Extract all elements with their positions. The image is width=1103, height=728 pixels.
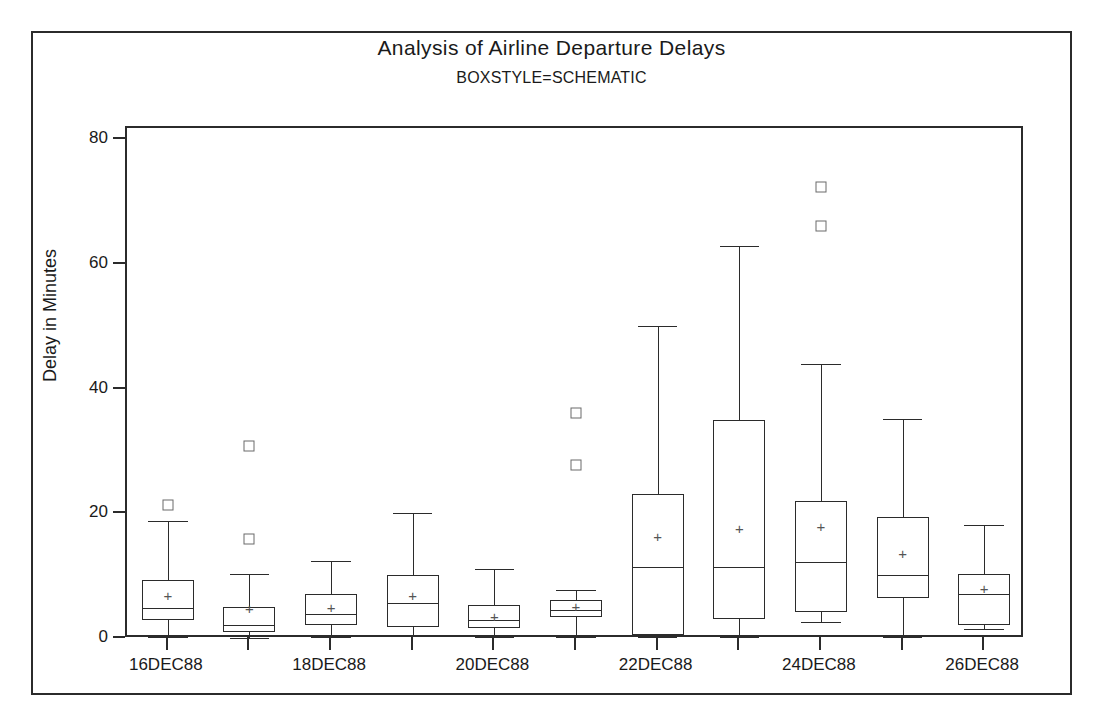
x-tick-label: 18DEC88 xyxy=(292,655,366,675)
x-tick-label: 22DEC88 xyxy=(619,655,693,675)
x-tick-mark xyxy=(901,637,903,650)
y-tick-mark xyxy=(113,387,125,389)
x-tick-mark xyxy=(819,637,821,650)
x-axis-tick-marks xyxy=(125,637,1023,651)
x-tick-label: 16DEC88 xyxy=(129,655,203,675)
x-tick-mark xyxy=(492,637,494,650)
chart-title: Analysis of Airline Departure Delays xyxy=(0,36,1103,60)
x-tick-mark xyxy=(411,637,413,650)
x-tick-mark xyxy=(574,637,576,650)
y-tick-label: 80 xyxy=(89,128,108,148)
y-axis-tick-labels: 020406080 xyxy=(60,126,108,637)
boxplot-series: +++++++++++ xyxy=(127,128,1021,635)
x-tick-mark xyxy=(737,637,739,650)
y-axis-label: Delay in Minutes xyxy=(40,206,61,426)
x-tick-label: 26DEC88 xyxy=(945,655,1019,675)
x-tick-mark xyxy=(247,637,249,650)
chart-subtitle: BOXSTYLE=SCHEMATIC xyxy=(0,69,1103,87)
x-tick-label: 24DEC88 xyxy=(782,655,856,675)
box-plot-group: + xyxy=(127,128,1021,635)
plot-area: +++++++++++ xyxy=(125,126,1023,637)
x-tick-mark xyxy=(656,637,658,650)
y-tick-label: 20 xyxy=(89,502,108,522)
y-tick-mark xyxy=(113,262,125,264)
y-tick-mark xyxy=(113,511,125,513)
box-whisker-cap-lower xyxy=(964,629,1004,630)
box-mean-marker: + xyxy=(980,580,989,595)
box-whisker-cap-upper xyxy=(964,525,1004,526)
boxplot-figure: Analysis of Airline Departure Delays BOX… xyxy=(0,0,1103,728)
x-tick-label: 20DEC88 xyxy=(456,655,530,675)
y-tick-mark xyxy=(113,137,125,139)
x-tick-mark xyxy=(329,637,331,650)
x-axis-tick-labels: 16DEC8818DEC8820DEC8822DEC8824DEC8826DEC… xyxy=(125,655,1023,685)
y-tick-label: 60 xyxy=(89,253,108,273)
x-tick-mark xyxy=(982,637,984,650)
y-tick-mark xyxy=(113,636,125,638)
x-tick-mark xyxy=(166,637,168,650)
y-tick-label: 40 xyxy=(89,378,108,398)
y-tick-label: 0 xyxy=(99,627,108,647)
box-whisker-upper xyxy=(984,525,985,574)
